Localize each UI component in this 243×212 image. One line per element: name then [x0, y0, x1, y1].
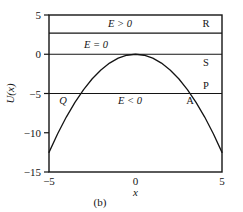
- x-tick-label-5: 5: [219, 175, 225, 187]
- y-tick-label-5: 5: [36, 9, 42, 21]
- annotation-energy-negative: E < 0: [117, 95, 143, 106]
- annotation-point-p: P: [203, 80, 209, 91]
- y-tick-label-neg5: −5: [29, 88, 41, 100]
- figure-caption: (b): [94, 196, 107, 209]
- annotation-energy-positive: E > 0: [107, 18, 133, 29]
- y-tick-label-neg10: −10: [24, 127, 42, 139]
- annotation-point-s: S: [203, 57, 209, 68]
- y-axis-title: U(x): [4, 83, 17, 103]
- x-axis-title: x: [132, 186, 138, 198]
- figure-container: 5 0 −5 −10 −15 U(x) −5 0 5 x E > 0 E = 0…: [0, 0, 243, 212]
- x-tick-label-neg5: −5: [43, 175, 55, 187]
- y-tick-label-0: 0: [36, 48, 42, 60]
- annotation-point-a: A: [186, 95, 194, 106]
- y-tick-label-neg15: −15: [24, 166, 42, 178]
- annotation-point-q: Q: [59, 95, 67, 106]
- annotation-energy-zero: E = 0: [83, 39, 109, 50]
- annotation-point-r: R: [202, 18, 209, 29]
- potential-energy-plot: 5 0 −5 −10 −15 U(x) −5 0 5 x E > 0 E = 0…: [0, 0, 243, 212]
